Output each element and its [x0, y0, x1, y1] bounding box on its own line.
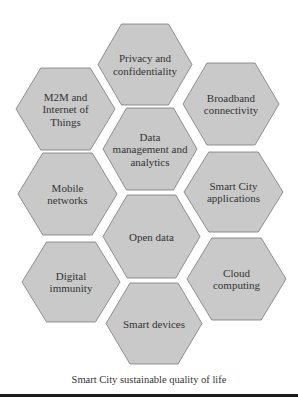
hexagon-label-line: Internet of [42, 103, 88, 115]
hexagon-label-line: Digital [56, 270, 87, 282]
hexagon-label-line: connectivity [204, 104, 259, 116]
hexagon-broadband: Broadbandconnectivity [183, 63, 279, 145]
hexagon-label-line: applications [207, 192, 260, 204]
hexagon-privacy: Privacy andconfidentiality [98, 24, 192, 105]
hexagon-smart-devices: Smart devices [106, 283, 202, 364]
hexagon-label-line: networks [47, 194, 87, 206]
hexagon-label-line: Data [140, 131, 161, 143]
hexagon-label-line: Things [50, 116, 81, 128]
hexagon-label-line: M2M and [44, 91, 88, 103]
hexagon-label-line: Mobile [52, 182, 84, 194]
hexagon-label-line: analytics [130, 156, 169, 168]
hexagon-label-line: Smart devices [123, 318, 185, 330]
hexagon-label-line: Smart City [210, 180, 258, 192]
smart-city-hexagon-diagram: Privacy andconfidentialityM2M andInterne… [0, 0, 298, 397]
hexagon-mobile: Mobilenetworks [18, 153, 117, 235]
hexagon-digital-immunity: Digitalimmunity [22, 242, 120, 322]
hexagon-m2m: M2M andInternet ofThings [16, 68, 115, 150]
hexagon-label-line: management and [113, 143, 188, 155]
hexagon-label-line: immunity [50, 282, 93, 294]
hexagon-smart-city-apps: Smart Cityapplications [184, 152, 283, 232]
hexagon-label-line: Cloud [223, 267, 250, 279]
hexagon-grid: Privacy andconfidentialityM2M andInterne… [0, 0, 298, 397]
hexagon-label-line: computing [213, 279, 261, 291]
diagram-caption: Smart City sustainable quality of life [0, 374, 298, 385]
hexagon-cloud: Cloudcomputing [187, 238, 286, 320]
hexagon-label-line: Privacy and [119, 52, 172, 64]
hexagon-label-line: Open data [129, 231, 174, 243]
hexagon-data-mgmt: Datamanagement andanalytics [103, 108, 197, 190]
hexagon-label-line: Broadband [207, 92, 256, 104]
hexagon-label-line: confidentiality [113, 65, 178, 77]
hexagon-open-data: Open data [103, 195, 200, 278]
